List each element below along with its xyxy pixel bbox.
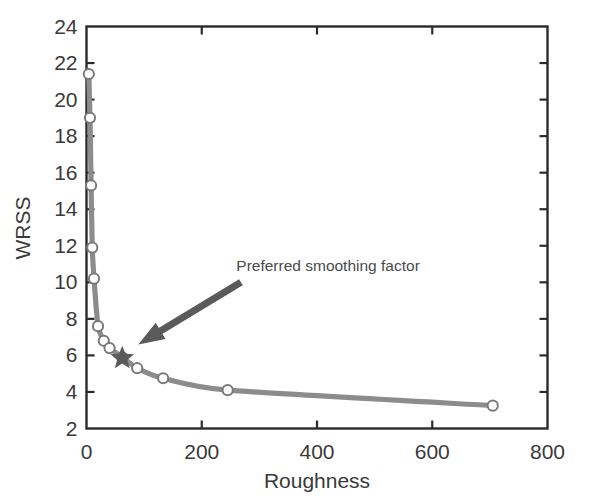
- data-point-marker: [84, 69, 94, 79]
- x-tick-label: 400: [299, 440, 334, 463]
- y-tick-label: 12: [54, 234, 77, 257]
- y-tick-label: 2: [66, 417, 78, 440]
- y-tick-label: 6: [66, 343, 78, 366]
- data-point-marker: [132, 363, 142, 373]
- data-point-marker: [158, 373, 168, 383]
- x-tick-label: 600: [415, 440, 450, 463]
- data-point-marker: [89, 274, 99, 284]
- preferred-smoothing-factor-label: Preferred smoothing factor: [236, 257, 420, 274]
- y-tick-label: 24: [54, 15, 78, 38]
- data-point-marker: [488, 401, 498, 411]
- y-tick-label: 18: [54, 124, 77, 147]
- y-tick-label: 22: [54, 51, 77, 74]
- x-axis-title: Roughness: [264, 469, 370, 492]
- figure-container: 0200400600800 24681012141618202224 Prefe…: [0, 0, 593, 502]
- data-point-marker: [104, 343, 114, 353]
- y-tick-label: 10: [54, 270, 77, 293]
- data-point-marker: [223, 385, 233, 395]
- data-point-marker: [93, 321, 103, 331]
- data-point-marker: [86, 180, 96, 190]
- data-point-marker: [87, 243, 97, 253]
- y-tick-label: 4: [66, 380, 78, 403]
- data-point-marker: [85, 113, 95, 123]
- y-tick-label: 20: [54, 88, 77, 111]
- x-tick-label: 200: [184, 440, 219, 463]
- y-tick-label: 14: [54, 197, 78, 220]
- y-tick-label: 16: [54, 161, 77, 184]
- y-tick-label: 8: [66, 307, 78, 330]
- y-axis-title: WRSS: [11, 197, 34, 260]
- lcurve-chart: 0200400600800 24681012141618202224 Prefe…: [0, 0, 593, 502]
- x-tick-label: 0: [81, 440, 93, 463]
- x-tick-label: 800: [530, 440, 565, 463]
